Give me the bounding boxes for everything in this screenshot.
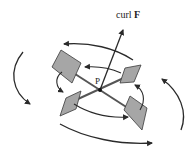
- paddle-bottom-left: [60, 91, 81, 116]
- axle-diagonal-2: [78, 76, 128, 99]
- vector-f-text: F: [134, 9, 140, 20]
- small-bottom-arrow: [74, 104, 128, 117]
- paddle-top-left: [52, 50, 81, 83]
- point-p-dot: [98, 88, 102, 92]
- curl-vector-arrow: [100, 30, 123, 90]
- curl-paddle-wheel-diagram: curl F P: [0, 0, 194, 159]
- point-p-label: P: [95, 76, 100, 86]
- outer-top-arrow: [64, 44, 133, 60]
- outer-right-arrow: [162, 79, 184, 130]
- outer-left-arrow: [14, 52, 30, 104]
- curl-f-label: curl F: [116, 9, 140, 20]
- inner-top-arrow: [85, 67, 121, 73]
- curl-text: curl: [116, 9, 132, 20]
- paddle-top-right: [120, 65, 141, 83]
- outer-bottom-arrow: [60, 124, 152, 143]
